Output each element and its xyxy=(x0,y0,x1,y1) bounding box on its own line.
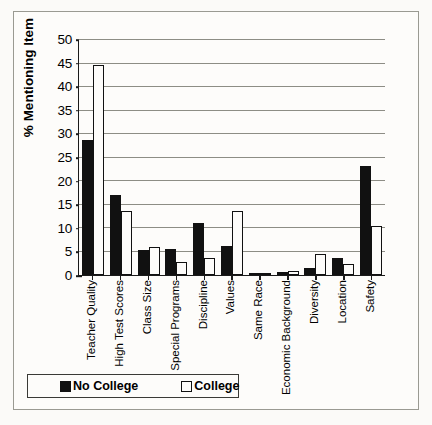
x-axis-label: Discipline xyxy=(198,280,210,329)
x-axis-label-cell: Class Size xyxy=(134,280,162,370)
bar-group xyxy=(135,40,163,275)
bar-group xyxy=(162,40,190,275)
bar-group xyxy=(246,40,274,275)
bar xyxy=(371,226,382,275)
bar xyxy=(110,195,121,275)
bar-group xyxy=(357,40,385,275)
bar xyxy=(93,65,104,275)
y-tick-label-5: 5 xyxy=(65,246,72,260)
bar-group xyxy=(190,40,218,275)
x-axis-label-cell: Location xyxy=(329,280,357,370)
legend-swatch-dark xyxy=(60,381,71,392)
y-tick-label-40: 40 xyxy=(57,80,72,94)
bar xyxy=(343,264,354,275)
plot-area xyxy=(78,40,385,276)
bar xyxy=(315,254,326,275)
bar xyxy=(249,273,260,275)
bar xyxy=(82,140,93,275)
bar xyxy=(260,273,271,275)
y-tick-label-15: 15 xyxy=(57,198,72,212)
bar xyxy=(121,211,132,275)
x-axis-label: Teacher Quality xyxy=(86,280,98,360)
y-tick-label-50: 50 xyxy=(57,33,72,47)
x-axis-label: Safety xyxy=(365,280,377,313)
y-tick-label-25: 25 xyxy=(57,151,72,165)
bar-group xyxy=(274,40,302,275)
bar xyxy=(149,247,160,275)
x-axis-label: Values xyxy=(226,280,238,314)
legend-label: College xyxy=(194,379,239,393)
bar xyxy=(165,249,176,275)
bar-group xyxy=(302,40,330,275)
y-tick-label-0: 0 xyxy=(65,269,72,283)
legend-entry: College xyxy=(181,379,239,393)
bar xyxy=(204,258,215,275)
bar xyxy=(221,246,232,275)
x-axis-label-cell: Economic Background xyxy=(273,280,301,370)
bar xyxy=(304,268,315,275)
bar xyxy=(138,250,149,275)
y-tick-label-30: 30 xyxy=(57,128,72,142)
y-axis-title: % Mentioning Item xyxy=(21,0,36,168)
x-axis-label: Economic Background xyxy=(282,280,294,395)
chart-figure: % Mentioning Item 05101520253035404550 T… xyxy=(0,0,432,425)
bar xyxy=(193,223,204,275)
bar-group xyxy=(329,40,357,275)
bar xyxy=(176,262,187,275)
x-axis-labels: Teacher QualityHigh Test ScoresClass Siz… xyxy=(78,280,385,370)
legend-swatch-light xyxy=(181,381,192,392)
x-axis-label: Special Programs xyxy=(170,280,182,371)
chart-legend: No CollegeCollege xyxy=(27,374,239,398)
bar-group xyxy=(218,40,246,275)
x-axis-label-cell: Special Programs xyxy=(162,280,190,370)
x-axis-label-cell: Discipline xyxy=(190,280,218,370)
bar xyxy=(360,166,371,275)
y-tick-label-20: 20 xyxy=(57,175,72,189)
x-axis-label: Location xyxy=(337,280,349,323)
bar xyxy=(288,271,299,275)
legend-label: No College xyxy=(73,379,138,393)
y-tick-label-10: 10 xyxy=(57,222,72,236)
x-axis-label-cell: Same Race xyxy=(245,280,273,370)
bar xyxy=(232,211,243,275)
x-axis-label-cell: Values xyxy=(218,280,246,370)
x-axis-label: Diversity xyxy=(309,280,321,324)
x-axis-label-cell: High Test Scores xyxy=(106,280,134,370)
bar xyxy=(277,272,288,275)
y-axis-ticks: 05101520253035404550 xyxy=(46,40,76,276)
y-tick-label-45: 45 xyxy=(57,57,72,71)
bar-groups xyxy=(79,40,385,275)
x-axis-label: Class Size xyxy=(142,280,154,334)
x-axis-label: Same Race xyxy=(254,280,266,340)
x-axis-label-cell: Safety xyxy=(357,280,385,370)
legend-entry: No College xyxy=(60,379,138,393)
x-axis-label: High Test Scores xyxy=(114,280,126,367)
x-axis-label-cell: Teacher Quality xyxy=(78,280,106,370)
bar-group xyxy=(79,40,107,275)
y-tick-label-35: 35 xyxy=(57,104,72,118)
bar xyxy=(332,258,343,275)
x-axis-label-cell: Diversity xyxy=(301,280,329,370)
bar-group xyxy=(107,40,135,275)
